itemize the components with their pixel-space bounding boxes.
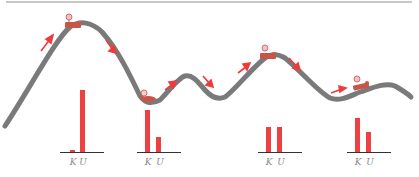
- label-kinetic: K: [264, 157, 274, 167]
- bar-kinetic: [70, 150, 75, 152]
- bar-potential: [366, 132, 371, 152]
- energy-chart-3: K U: [258, 107, 302, 167]
- arrow-icons: [41, 35, 346, 93]
- arrow-right-icon: [331, 86, 346, 93]
- label-kinetic: K: [353, 157, 363, 167]
- bar-potential: [80, 90, 85, 152]
- bar-kinetic: [266, 127, 271, 152]
- cart-icon: [260, 45, 276, 59]
- bar-kinetic: [145, 110, 150, 152]
- label-potential: U: [276, 157, 286, 167]
- label-potential: U: [155, 157, 165, 167]
- energy-chart-4: K U: [347, 107, 391, 167]
- energy-chart-1: K U: [60, 107, 104, 167]
- chart-axis: [347, 152, 391, 153]
- chart-axis: [137, 152, 181, 153]
- bar-kinetic: [355, 118, 360, 152]
- bar-potential: [277, 127, 282, 152]
- chart-axis: [258, 152, 302, 153]
- bar-potential: [156, 137, 161, 152]
- chart-axis: [60, 152, 104, 153]
- label-kinetic: K: [143, 157, 153, 167]
- label-potential: U: [78, 157, 88, 167]
- label-kinetic: K: [68, 157, 78, 167]
- arrow-down-right-icon: [203, 76, 213, 87]
- energy-chart-2: K U: [137, 107, 181, 167]
- label-potential: U: [365, 157, 375, 167]
